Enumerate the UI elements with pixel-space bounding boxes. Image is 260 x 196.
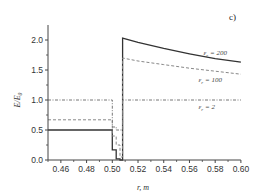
x-tick-label: 0.50: [104, 164, 121, 174]
line-chart: 0.00.51.01.52.00.460.480.500.520.540.560…: [0, 0, 260, 196]
y-axis-title: E/E0: [13, 92, 23, 108]
chart-container: 0.00.51.01.52.00.460.480.500.520.540.560…: [0, 0, 260, 196]
y-tick-label: 1.5: [31, 65, 43, 75]
x-tick-label: 0.48: [78, 164, 95, 174]
x-tick-label: 0.54: [155, 164, 172, 174]
x-tick-label: 0.52: [130, 164, 147, 174]
series-annotation: εr = 100: [198, 76, 222, 85]
series-annotation: εr = 200: [204, 49, 228, 58]
x-tick-label: 0.60: [233, 164, 250, 174]
y-tick-label: 1.0: [31, 95, 43, 105]
x-tick-label: 0.58: [207, 164, 224, 174]
y-tick-label: 0.0: [31, 155, 43, 165]
x-tick-label: 0.56: [181, 164, 198, 174]
x-axis-title: r, m: [137, 183, 149, 192]
y-tick-label: 2.0: [31, 35, 43, 45]
series-annotation: εr = 2: [198, 103, 215, 112]
y-tick-label: 0.5: [31, 125, 43, 135]
x-tick-label: 0.46: [53, 164, 70, 174]
panel-label: c): [229, 12, 236, 22]
